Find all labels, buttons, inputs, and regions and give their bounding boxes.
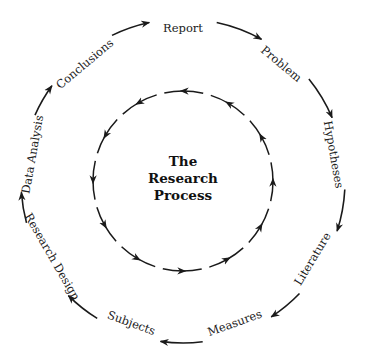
outer-step-label: Subjects bbox=[105, 308, 157, 338]
outer-step-label: Conclusions bbox=[53, 36, 116, 92]
inner-arrow bbox=[163, 269, 202, 271]
outer-arrow bbox=[112, 23, 149, 36]
inner-arrow bbox=[211, 95, 245, 115]
outer-arrow bbox=[271, 294, 299, 317]
outer-step-label: Hypotheses bbox=[321, 120, 347, 190]
outer-step-label: Problem bbox=[258, 43, 305, 85]
inner-arrow bbox=[271, 162, 273, 201]
center-title-line-1: The bbox=[169, 153, 197, 169]
center-title-line-3: Process bbox=[154, 187, 213, 203]
outer-step-label: Literature bbox=[291, 230, 334, 288]
outer-arrow bbox=[35, 86, 52, 115]
inner-arrow bbox=[122, 247, 156, 267]
center-title-line-2: Research bbox=[148, 170, 218, 186]
inner-arrow bbox=[249, 209, 269, 243]
inner-arrow bbox=[209, 248, 243, 267]
outer-arrow bbox=[161, 341, 203, 343]
outer-step-label: Report bbox=[163, 21, 203, 35]
center-title: The Research Process bbox=[148, 153, 218, 203]
research-process-diagram: ReportProblemHypothesesLiteratureMeasure… bbox=[0, 0, 366, 354]
inner-arrow bbox=[97, 207, 116, 241]
inner-arrow bbox=[93, 161, 95, 200]
outer-step-label: Measures bbox=[206, 307, 264, 340]
outer-arrow bbox=[337, 190, 345, 232]
inner-arrow bbox=[164, 91, 203, 93]
outer-step-label: Data Analysis bbox=[19, 114, 47, 195]
inner-arrow bbox=[250, 121, 269, 155]
outer-arrow bbox=[217, 23, 262, 40]
inner-arrow bbox=[97, 120, 117, 154]
inner-arrow bbox=[123, 95, 157, 114]
outer-arrow bbox=[309, 79, 332, 118]
outer-step-label: Research Design bbox=[22, 210, 84, 303]
